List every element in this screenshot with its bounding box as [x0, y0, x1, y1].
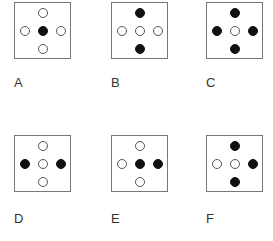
option-e-label: E — [111, 211, 120, 226]
dot-bottom — [230, 44, 240, 54]
dot-center — [230, 159, 240, 169]
option-c-label: C — [206, 75, 215, 90]
dot-top — [230, 141, 240, 151]
dot-right — [153, 26, 163, 36]
option-b-label: B — [111, 75, 120, 90]
dot-bottom — [135, 44, 145, 54]
dot-left — [212, 26, 222, 36]
dot-right — [153, 159, 163, 169]
option-f-box[interactable] — [206, 135, 263, 192]
dot-left — [20, 26, 30, 36]
option-d-box[interactable] — [14, 135, 71, 192]
dot-bottom — [230, 177, 240, 187]
dot-top — [230, 8, 240, 18]
dot-center — [135, 159, 145, 169]
dot-left — [117, 26, 127, 36]
option-e-box[interactable] — [111, 135, 168, 192]
dot-top — [135, 141, 145, 151]
option-d-label: D — [14, 211, 23, 226]
dot-bottom — [38, 177, 48, 187]
option-a-label: A — [14, 75, 23, 90]
option-c-box[interactable] — [206, 2, 263, 59]
dot-left — [117, 159, 127, 169]
option-b-box[interactable] — [111, 2, 168, 59]
dot-center — [38, 26, 48, 36]
dot-top — [135, 8, 145, 18]
dot-top — [38, 141, 48, 151]
dot-top — [38, 8, 48, 18]
dot-left — [212, 159, 222, 169]
dot-center — [135, 26, 145, 36]
dot-right — [248, 159, 258, 169]
dot-right — [56, 26, 66, 36]
dot-center — [38, 159, 48, 169]
option-f-label: F — [206, 211, 214, 226]
dot-right — [56, 159, 66, 169]
dot-left — [20, 159, 30, 169]
dot-center — [230, 26, 240, 36]
dot-right — [248, 26, 258, 36]
option-a-box[interactable] — [14, 2, 71, 59]
dot-bottom — [38, 44, 48, 54]
dot-bottom — [135, 177, 145, 187]
